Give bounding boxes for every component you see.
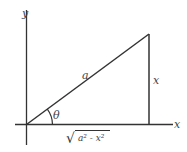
angle-label: θ	[53, 109, 60, 122]
x-axis-label: x	[174, 118, 181, 131]
hypotenuse-label: a	[82, 69, 89, 82]
triangle-diagram: y x a x θ √ a² - x²	[0, 0, 187, 152]
radical-sign: √	[66, 130, 75, 146]
y-axis-label: y	[21, 7, 29, 20]
radicand: a² - x²	[78, 133, 105, 143]
angle-arc	[47, 109, 52, 124]
adjacent-label: √ a² - x²	[66, 130, 110, 146]
opposite-label: x	[153, 74, 160, 87]
